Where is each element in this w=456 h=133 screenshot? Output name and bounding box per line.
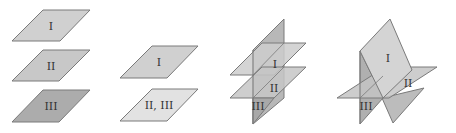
panel-3: I II III — [230, 19, 306, 124]
plane-label-I: I — [386, 52, 390, 65]
panel-2: I II, III — [120, 46, 198, 121]
plane-label-I: I — [49, 20, 53, 33]
plane-label-III: III — [359, 100, 372, 113]
plane-label-II: II — [270, 82, 279, 95]
plane-label-II-III: II, III — [145, 99, 174, 112]
plane-label-II: II — [47, 60, 56, 73]
plane-label-II: II — [404, 77, 413, 90]
plane-label-III: III — [44, 100, 57, 113]
panel-1: I II III — [12, 10, 90, 122]
plane-label-III: III — [251, 100, 264, 113]
panel-4: I II III — [337, 19, 437, 124]
planes-diagram: I II III I II, III I II III — [0, 0, 456, 133]
plane-label-I: I — [273, 58, 277, 71]
plane-label-I: I — [157, 56, 161, 69]
